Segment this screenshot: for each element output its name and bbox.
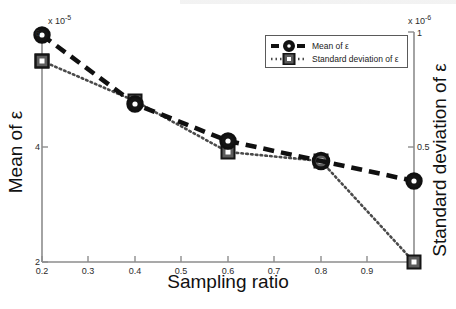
x-axis-ticks <box>42 256 414 262</box>
legend-label-std: Standard deviation of ε <box>312 54 399 64</box>
legend-swatch-mean <box>270 40 308 52</box>
legend-item-mean: Mean of ε <box>270 39 403 52</box>
y2-axis-exponent: x 10-6 <box>408 14 431 26</box>
y2-tick-label: 1 <box>417 28 422 38</box>
y2-tick-label: 0.5 <box>417 142 430 152</box>
legend-swatch-std <box>270 53 308 65</box>
y-tick-label: 6 <box>28 28 40 38</box>
y-axis-exponent-base: x 10 <box>48 16 65 26</box>
x-tick-label: 0.4 <box>129 266 142 276</box>
chart-legend: Mean of ε Standard deviation of ε <box>265 35 408 68</box>
y2-axis-exponent-power: -6 <box>425 14 431 21</box>
x-axis-label: Sampling ratio <box>167 271 288 293</box>
y2-axis-ticks <box>408 32 414 262</box>
y-axis-exponent-power: -5 <box>65 14 71 21</box>
x-tick-label: 0.9 <box>361 266 374 276</box>
x-tick-label: 0.2 <box>36 266 49 276</box>
y2-axis-label: Standard deviation of ε <box>429 63 451 256</box>
y-axis-label: Mean of ε <box>5 111 27 193</box>
y-tick-label: 2 <box>28 257 40 267</box>
y-axis-exponent: x 10-5 <box>48 14 71 26</box>
figure-canvas: 0.2 0.3 0.4 0.5 0.6 0.7 0.8 0.9 2 4 6 0.… <box>0 0 456 309</box>
legend-item-std: Standard deviation of ε <box>270 52 403 65</box>
legend-label-mean: Mean of ε <box>312 41 349 51</box>
y-tick-label: 4 <box>28 142 40 152</box>
y2-axis-exponent-base: x 10 <box>408 16 425 26</box>
std-series-line <box>42 61 414 262</box>
x-tick-label: 0.8 <box>315 266 328 276</box>
std-series-markers <box>36 55 421 269</box>
x-tick-label: 0.3 <box>82 266 95 276</box>
